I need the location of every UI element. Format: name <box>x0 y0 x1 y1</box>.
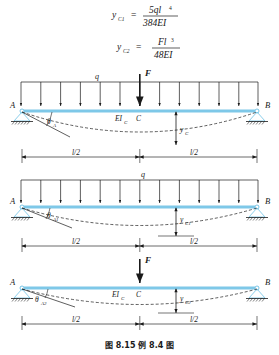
dimension-label-left-3: l/2 <box>72 315 80 324</box>
formula-2-equals: = <box>136 42 141 52</box>
formula-1-denominator: 384EI <box>142 18 167 28</box>
beam-udl: q A B θ A1 <box>9 170 270 252</box>
angle-label-theta-2: θ <box>47 211 51 220</box>
angle-label-theta-sub-2: A1 <box>52 217 59 222</box>
tangent-line-A-1 <box>22 112 70 137</box>
node-label-B-3: B <box>265 277 270 287</box>
angle-label-theta-sub-3: A2 <box>40 301 47 306</box>
load-label-q-1: q <box>95 72 99 81</box>
dimension-row-1: l/2 l/2 <box>22 148 257 163</box>
udl-arrows-2 <box>21 180 258 203</box>
dimension-row-2: l/2 l/2 <box>22 237 257 252</box>
section-label-EI-1: EI <box>114 114 123 123</box>
dimension-label-right-3: l/2 <box>190 315 198 324</box>
formula-2-lhs-sub: C2 <box>123 48 130 54</box>
dimension-label-left-1: l/2 <box>72 148 80 157</box>
beam-point-load: F A B EI C C <box>9 255 270 330</box>
node-label-C-1: C <box>136 114 142 123</box>
dimension-label-left-2: l/2 <box>72 237 80 246</box>
dimension-row-3: l/2 l/2 <box>22 315 257 330</box>
deflection-label-y-sub-1: C <box>185 131 189 136</box>
angle-arc-3 <box>45 289 48 298</box>
formula-2-numerator: Fl <box>157 37 167 47</box>
section-label-EI-sub-1: C <box>124 120 128 125</box>
node-label-B-1: B <box>265 100 270 110</box>
load-label-F-3: F <box>144 255 151 265</box>
angle-label-theta-sub-1: A <box>52 123 57 128</box>
load-label-q-2: q <box>141 170 145 179</box>
deflection-label-y-2: y <box>179 215 184 224</box>
formula-1-numerator: 5ql <box>149 5 162 15</box>
node-label-C-3: C <box>136 290 142 299</box>
beam-combined: q F A B EI <box>9 68 270 163</box>
section-label-EI-sub-3: C <box>121 296 125 301</box>
formula-2-numerator-exponent: 3 <box>171 37 174 43</box>
angle-label-theta-3: θ <box>35 295 39 304</box>
angle-label-theta-1: θ <box>47 117 51 126</box>
figure-root: y C1 = 5ql 4 384EI y C2 = Fl 3 48EI <box>0 0 279 355</box>
beam-deflection-figure: y C1 = 5ql 4 384EI y C2 = Fl 3 48EI <box>0 0 279 355</box>
dimension-label-right-1: l/2 <box>190 148 198 157</box>
node-label-B-2: B <box>265 196 270 206</box>
formula-1-lhs-sub: C1 <box>118 16 125 22</box>
formula-2-denominator: 48EI <box>154 50 173 60</box>
node-label-A-1: A <box>9 100 16 110</box>
formula-2-lhs: y <box>116 42 122 52</box>
dimension-label-right-2: l/2 <box>190 237 198 246</box>
deflection-label-y-1: y <box>179 125 184 134</box>
load-label-F-1: F <box>144 68 151 78</box>
formula-1: y C1 = 5ql 4 384EI <box>111 5 178 29</box>
section-label-EI-3: EI <box>111 290 120 299</box>
deflection-label-y-3: y <box>179 294 184 303</box>
formula-1-numerator-exponent: 4 <box>169 5 172 11</box>
node-label-A-3: A <box>9 277 16 287</box>
deflection-label-y-sub-3: C2 <box>185 300 191 305</box>
formula-2: y C2 = Fl 3 48EI <box>116 37 180 61</box>
node-label-A-2: A <box>9 196 16 206</box>
formula-1-equals: = <box>131 10 136 20</box>
formula-1-lhs: y <box>111 10 117 20</box>
figure-caption: 图 8.15 例 8.4 图 <box>105 340 174 350</box>
deflection-label-y-sub-2: C1 <box>185 221 191 226</box>
